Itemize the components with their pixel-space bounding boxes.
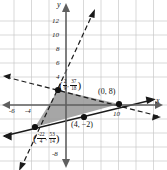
y-tick-10: 10 [52, 32, 59, 39]
y-tick-12: 12 [52, 18, 59, 25]
fraction-y-bottom-denominator: 14 [49, 138, 56, 144]
arrow-y-top [62, 3, 70, 12]
x-tick-minus-4: -4 [25, 108, 31, 115]
paren-close-bottom: ) [56, 132, 60, 144]
label-point-fraction-top: (29, 3718) [59, 76, 81, 92]
x-tick-minus-6: -6 [9, 108, 15, 115]
y-tick-minus-8: -8 [52, 151, 58, 158]
arrow-steep-dashed-top [89, 9, 96, 18]
fraction-x-bottom: -224 [37, 132, 46, 144]
dot-vertex-right [116, 101, 122, 107]
y-tick-8: 8 [56, 46, 60, 53]
label-point-4-minus-2: (4, −2) [71, 121, 93, 129]
x-axis-label: x [156, 97, 160, 105]
y-axis-label: y [57, 1, 61, 9]
paren-close-top: ) [77, 79, 81, 91]
arrow-y-bottom [62, 159, 70, 168]
label-point-fraction-bottom: (-224, 5314) [33, 129, 59, 145]
label-point-0-8: (0, 8) [98, 88, 115, 96]
fraction-x-bottom-denominator: 4 [37, 138, 46, 144]
arrow-steep-dashed-bottom [19, 162, 26, 170]
x-tick-10: 10 [113, 111, 120, 118]
arrow-shallow-dashed-left [3, 74, 11, 80]
y-tick-6: 6 [56, 60, 60, 67]
fraction-y-bottom-numerator: 53 [49, 132, 56, 137]
fraction-y-bottom: 5314 [49, 132, 56, 144]
graph-canvas [0, 0, 167, 170]
fraction-x-bottom-numerator: -22 [37, 132, 46, 137]
coordinate-plane-figure: 12 10 8 6 4 -8 -6 -4 10 x y (0, 8) (4, −… [0, 0, 167, 170]
